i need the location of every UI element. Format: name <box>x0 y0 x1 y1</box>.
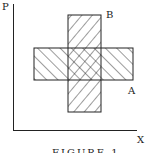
rect-b <box>68 15 101 112</box>
x-axis-label: X <box>137 135 144 145</box>
rect-b-label: B <box>106 10 113 20</box>
diagram-canvas <box>0 0 146 153</box>
figure-caption: FIGURE 1 <box>52 148 120 153</box>
rect-a-label: A <box>128 86 135 96</box>
y-axis-label: P <box>2 2 9 12</box>
